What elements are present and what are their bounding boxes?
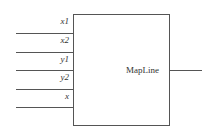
input-label-x2: x2 bbox=[61, 35, 70, 45]
input-label-x: x bbox=[65, 91, 69, 101]
input-line-y2 bbox=[16, 70, 73, 71]
input-line-x2 bbox=[16, 33, 73, 34]
input-line-extra bbox=[16, 107, 73, 108]
input-label-y1: y1 bbox=[61, 54, 70, 64]
input-label-x1: x1 bbox=[61, 16, 70, 26]
input-label-y2: y2 bbox=[61, 72, 70, 82]
output-line bbox=[170, 70, 202, 71]
input-line-y1 bbox=[16, 52, 73, 53]
input-line-x bbox=[16, 89, 73, 90]
block-label: MapLine bbox=[126, 65, 159, 75]
